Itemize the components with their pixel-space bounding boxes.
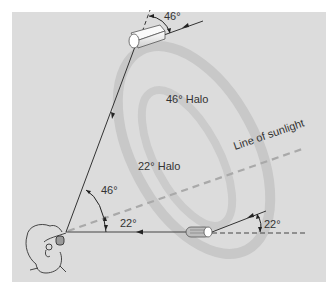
label-angle-eye-46: 46° [101,184,118,196]
ice-crystal-bottom [186,227,212,237]
label-angle-eye-22: 22° [120,217,137,229]
halo-diagram: 46° 46° Halo 22° Halo Line of sunlight 4… [0,0,332,289]
label-halo-22: 22° Halo [138,160,180,172]
label-angle-top-crystal: 46° [164,10,181,22]
label-angle-bottom-crystal: 22° [264,218,281,230]
label-halo-46: 46° Halo [166,93,208,105]
